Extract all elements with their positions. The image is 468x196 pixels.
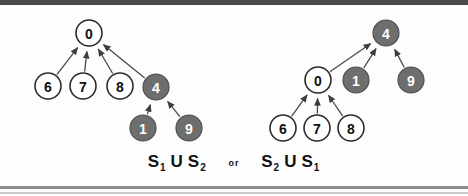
node-label: 9 [185, 121, 193, 137]
tree-node-right-tree-4[interactable]: 4 [373, 20, 399, 46]
node-label: 8 [347, 121, 355, 137]
tree-node-left-tree-4[interactable]: 4 [143, 74, 169, 100]
tree-node-left-tree-7[interactable]: 7 [70, 73, 96, 99]
tree-edge-9-to-4 [395, 49, 405, 67]
tree-edge-6-to-0 [57, 48, 78, 75]
node-label: 6 [279, 121, 287, 137]
caption-s-right2: S [301, 152, 313, 171]
tree-edge-7-to-0 [85, 51, 87, 71]
caption-s-left: S [148, 152, 160, 171]
caption-or: or [229, 158, 240, 168]
tree-node-left-tree-6[interactable]: 6 [35, 73, 61, 99]
tree-edge-1-to-4 [364, 49, 376, 68]
figure-frame: 06784194019678 S1US2 or S2US1 [0, 0, 468, 196]
frame-bottom-border-secondary [0, 192, 468, 194]
node-label: 4 [152, 80, 160, 96]
tree-edge-9-to-4 [168, 101, 180, 116]
node-label: 0 [314, 73, 322, 89]
caption-left-expression: S1US2 [148, 152, 207, 171]
caption-s-right: S [261, 152, 273, 171]
node-label: 4 [382, 26, 390, 42]
node-label: 8 [116, 79, 124, 95]
tree-node-right-tree-9[interactable]: 9 [398, 67, 424, 93]
tree-node-right-tree-0[interactable]: 0 [305, 67, 331, 93]
tree-edge-1-to-4 [147, 105, 150, 115]
caption-union-right: U [284, 152, 297, 171]
tree-edge-8-to-0 [98, 49, 112, 74]
caption-s-right-sub: 2 [274, 162, 281, 173]
tree-node-left-tree-9[interactable]: 9 [176, 115, 202, 141]
tree-node-right-tree-6[interactable]: 6 [270, 115, 296, 141]
caption: S1US2 or S2US1 [0, 152, 468, 173]
tree-edge-6-to-0 [292, 95, 308, 116]
node-label: 7 [313, 121, 321, 137]
tree-node-left-tree-8[interactable]: 8 [107, 73, 133, 99]
caption-s-left2-sub: 2 [200, 162, 207, 173]
caption-s-left-sub: 1 [160, 162, 167, 173]
caption-s-right2-sub: 1 [314, 162, 321, 173]
frame-bottom-border [0, 186, 468, 189]
node-label: 9 [407, 73, 415, 89]
tree-node-right-tree-8[interactable]: 8 [338, 115, 364, 141]
tree-node-left-tree-0[interactable]: 0 [76, 20, 102, 46]
tree-node-right-tree-7[interactable]: 7 [304, 115, 330, 141]
node-label: 6 [44, 79, 52, 95]
node-label: 7 [79, 79, 87, 95]
node-label: 1 [352, 73, 360, 89]
caption-right-expression: S2US1 [261, 152, 320, 171]
tree-node-right-tree-1[interactable]: 1 [343, 67, 369, 93]
caption-s-left2: S [188, 152, 200, 171]
node-label: 0 [85, 26, 93, 42]
tree-edge-8-to-0 [328, 95, 342, 116]
tree-node-left-tree-1[interactable]: 1 [130, 115, 156, 141]
nodes-layer: 06784194019678 [35, 20, 424, 141]
node-label: 1 [139, 121, 147, 137]
caption-union-left: U [171, 152, 184, 171]
